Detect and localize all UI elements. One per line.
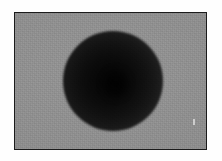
bright-speck-artifact [193, 119, 195, 125]
image-frame [14, 12, 207, 150]
dark-sphere [63, 31, 163, 131]
figure-root: Dark spherical particle on a uniform gra… [0, 0, 222, 161]
